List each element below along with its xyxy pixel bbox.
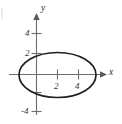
graph-figure: y x 2 4 4 2 -4 bbox=[0, 0, 122, 124]
y-axis-label: y bbox=[41, 4, 45, 14]
y-axis-arrowhead bbox=[33, 13, 39, 20]
x-tick-label-4: 4 bbox=[75, 82, 80, 91]
x-axis-arrowhead bbox=[100, 71, 107, 77]
y-tick-label-4: 4 bbox=[25, 29, 30, 38]
x-tick-label-2: 2 bbox=[54, 82, 59, 91]
coordinate-plot bbox=[0, 0, 122, 124]
x-axis-label: x bbox=[109, 68, 113, 78]
y-tick-label-negative-4: -4 bbox=[21, 107, 29, 116]
y-tick-label-2: 2 bbox=[25, 49, 30, 58]
